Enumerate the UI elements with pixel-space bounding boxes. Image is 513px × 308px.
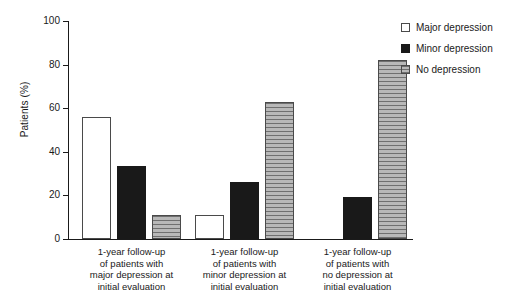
- bar: [378, 60, 407, 239]
- bar: [117, 166, 146, 239]
- bar: [152, 215, 181, 239]
- bar: [343, 197, 372, 240]
- bar: [195, 215, 224, 239]
- bar: [265, 102, 294, 239]
- x-axis-group-label: 1-year follow-up of patients with minor …: [189, 246, 301, 292]
- y-axis-tick-label: 100: [43, 14, 60, 27]
- legend-item-none: No depression: [401, 59, 513, 80]
- y-axis-tick-label: 20: [49, 188, 60, 201]
- y-axis-label: Patients (%): [19, 62, 30, 158]
- y-axis-tick: 100: [63, 21, 68, 22]
- plot-area: 020406080100: [68, 21, 413, 239]
- y-axis-tick: 60: [63, 108, 68, 109]
- y-axis-tick: 20: [63, 195, 68, 196]
- legend-item-label: Major depression: [416, 22, 493, 34]
- bar: [230, 182, 259, 239]
- legend-swatch-icon: [401, 23, 410, 32]
- legend-item-label: No depression: [416, 64, 480, 76]
- legend-swatch-icon: [401, 65, 410, 74]
- y-axis-tick-label: 40: [49, 145, 60, 158]
- x-axis-group-label: 1-year follow-up of patients with no dep…: [302, 246, 414, 292]
- chart-legend: Major depressionMinor depressionNo depre…: [401, 17, 513, 80]
- y-axis-tick: 80: [63, 65, 68, 66]
- y-axis-tick-label: 80: [49, 58, 60, 71]
- legend-swatch-icon: [401, 44, 410, 53]
- y-axis-tick: 0: [63, 239, 68, 240]
- legend-item-major: Major depression: [401, 17, 513, 38]
- bar-chart-figure: Patients (%) 020406080100 1-year follow-…: [0, 0, 513, 308]
- y-axis-tick-label: 0: [54, 232, 60, 245]
- y-axis-line: [68, 21, 69, 240]
- legend-item-label: Minor depression: [416, 43, 493, 55]
- x-axis-line: [68, 239, 413, 240]
- legend-item-minor: Minor depression: [401, 38, 513, 59]
- y-axis-tick: 40: [63, 152, 68, 153]
- bar: [82, 117, 111, 239]
- x-axis-group-label: 1-year follow-up of patients with major …: [76, 246, 188, 292]
- y-axis-tick-label: 60: [49, 101, 60, 114]
